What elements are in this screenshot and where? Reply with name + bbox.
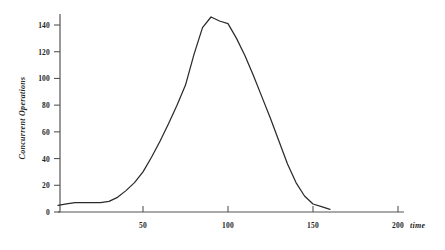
y-tick-label: 40 [30, 154, 50, 163]
y-tick-label: 0 [30, 208, 50, 217]
x-tick-label: 50 [139, 221, 147, 230]
x-tick-label: 200 [392, 221, 404, 230]
y-tick-label: 20 [30, 181, 50, 190]
line-chart: Concurrent Operations time 0204060801001… [0, 0, 445, 250]
y-axis-label: Concurrent Operations [18, 77, 27, 160]
x-axis-label: time [410, 221, 425, 230]
y-axis-ticks [54, 25, 60, 212]
x-tick-label: 150 [307, 221, 319, 230]
y-tick-label: 60 [30, 127, 50, 136]
x-tick-label: 100 [222, 221, 234, 230]
y-tick-label: 120 [30, 47, 50, 56]
axis-group [54, 14, 404, 212]
y-tick-label: 140 [30, 21, 50, 30]
data-series-line [58, 17, 330, 209]
chart-plot-area [0, 0, 445, 250]
x-axis-ticks [143, 206, 398, 212]
y-tick-label: 80 [30, 101, 50, 110]
y-tick-label: 100 [30, 74, 50, 83]
